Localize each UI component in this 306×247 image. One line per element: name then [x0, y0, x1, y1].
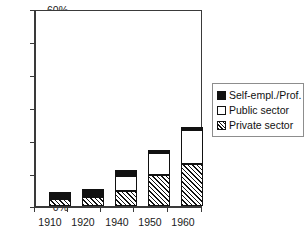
xtick-mark-1: [67, 208, 68, 212]
legend-label-private-sector: Private sector: [229, 119, 293, 131]
bar-1950-private-sector: [148, 175, 170, 206]
bar-1940-private-sector: [115, 191, 137, 206]
legend-item-public-sector: Public sector: [217, 103, 300, 117]
plot-area: [34, 10, 202, 208]
bar-1920-self-employed: [82, 189, 104, 195]
bar-1950: [148, 150, 170, 206]
bar-1940-public-sector: [115, 176, 137, 191]
private-sector-swatch-icon: [217, 121, 226, 130]
legend-item-self-employed: Self-empl./Prof.: [217, 88, 300, 102]
bar-1940: [115, 170, 137, 206]
bar-1950-public-sector: [148, 153, 170, 175]
xtick-mark-0: [34, 208, 35, 212]
xtick-mark-3: [133, 208, 134, 212]
bar-1950-self-employed: [148, 150, 170, 153]
xtick-mark-2: [100, 208, 101, 212]
bar-1960: [181, 127, 203, 206]
bar-1910-self-employed: [49, 192, 71, 199]
legend-item-private-sector: Private sector: [217, 118, 300, 132]
bar-1960-private-sector: [181, 164, 203, 206]
self-employed-swatch-icon: [217, 91, 226, 100]
stacked-bar-chart: 60% 50% 40% 30% 20% 10% 0%: [0, 0, 306, 247]
bar-1920-private-sector: [82, 197, 104, 206]
chart-legend: Self-empl./Prof. Public sector Private s…: [212, 83, 304, 137]
xtick-mark-5: [201, 208, 202, 212]
bar-1910: [49, 192, 71, 206]
bar-1920: [82, 189, 104, 206]
xtick-mark-4: [167, 208, 168, 212]
bar-1960-self-employed: [181, 127, 203, 130]
public-sector-swatch-icon: [217, 106, 226, 115]
legend-label-self-employed: Self-empl./Prof.: [229, 89, 301, 101]
bar-1910-private-sector: [49, 199, 71, 206]
bar-1940-self-employed: [115, 170, 137, 176]
xtick-label-1960: 1960: [163, 216, 203, 228]
legend-label-public-sector: Public sector: [229, 104, 289, 116]
bar-1920-public-sector: [82, 195, 104, 197]
bar-1960-public-sector: [181, 130, 203, 164]
